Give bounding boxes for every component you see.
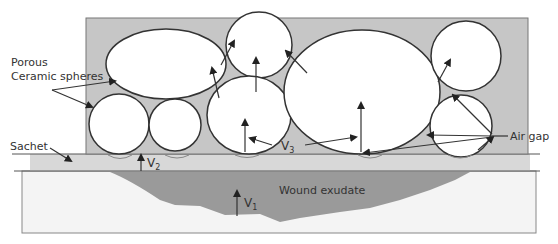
porous-label-line2: Ceramic spheres [11,70,104,83]
sphere-bottom-left-2 [149,99,201,151]
v3-subscript: 3 [289,146,294,155]
sphere-large-center [284,30,440,154]
sachet-label: Sachet [10,140,49,153]
sphere-mid [207,76,291,154]
diagram-canvas: Porous Ceramic spheres Sachet Air gap Wo… [0,0,558,244]
wound-dressing-diagram: Porous Ceramic spheres Sachet Air gap Wo… [0,0,558,244]
air-gap-label: Air gap [510,130,549,143]
porous-label-line1: Porous [11,56,48,69]
v1-subscript: 1 [252,203,257,212]
v2-subscript: 2 [155,163,160,172]
sphere-top-mid [226,12,292,78]
wound-exudate-label: Wound exudate [279,184,365,197]
sphere-ellipse-top-left [106,29,226,99]
sphere-bottom-right [430,95,492,157]
sphere-top-right [431,21,501,91]
sphere-bottom-left-1 [89,94,149,154]
